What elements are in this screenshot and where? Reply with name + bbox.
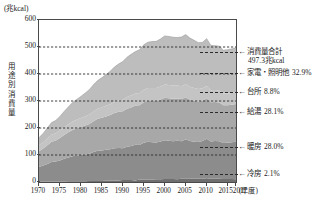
callout-value: 497.3兆kcal bbox=[248, 56, 284, 65]
y-tick-label: 100 bbox=[14, 150, 36, 158]
x-tick-mark bbox=[143, 183, 144, 186]
unit-caption: (兆kcal) bbox=[4, 4, 29, 13]
x-tick-label: 1970 bbox=[31, 187, 45, 195]
callout-arrow-icon: ← bbox=[238, 87, 247, 96]
callout-leader-heating bbox=[200, 147, 238, 148]
callout-appliances: ←家電・照明他32.9% bbox=[238, 68, 311, 77]
callout-hotwater: ←給湯28.1% bbox=[238, 107, 283, 116]
x-tick-label: 2000 bbox=[157, 187, 171, 195]
callout-arrow-icon: ← bbox=[238, 169, 247, 178]
callout-cooling: ←冷房2.1% bbox=[238, 169, 280, 178]
x-tick-mark bbox=[235, 183, 236, 186]
callout-leader-hotwater bbox=[200, 112, 238, 113]
y-tick-mark bbox=[37, 46, 40, 47]
callout-value: 8.8% bbox=[264, 87, 280, 96]
x-tick-label: 1980 bbox=[73, 187, 87, 195]
y-tick-mark bbox=[37, 154, 40, 155]
callout-value: 28.1% bbox=[264, 107, 283, 116]
callout-label: 暖房 bbox=[247, 142, 261, 151]
y-tick-mark bbox=[37, 100, 40, 101]
chart-root: (兆kcal) 用途別消費量 0100200300400500600 19701… bbox=[0, 0, 322, 207]
callout-arrow-icon: ← bbox=[238, 68, 247, 77]
callout-label: 家電・照明他 bbox=[247, 68, 289, 77]
y-axis-ticks: 0100200300400500600 bbox=[12, 19, 36, 183]
x-tick-mark bbox=[164, 183, 165, 186]
x-tick-label: 2015 bbox=[218, 187, 232, 195]
x-tick-label: 1985 bbox=[94, 187, 108, 195]
x-tick-mark bbox=[122, 183, 123, 186]
callout-arrow-icon: ← bbox=[238, 47, 247, 56]
y-tick-label: 600 bbox=[14, 15, 36, 23]
x-axis-unit-label: (年度) bbox=[239, 187, 258, 195]
callout-label: 冷房 bbox=[247, 169, 261, 178]
callout-leader-cooling bbox=[200, 174, 238, 175]
x-tick-mark bbox=[185, 183, 186, 186]
y-tick-label: 400 bbox=[14, 69, 36, 77]
y-tick-label: 500 bbox=[14, 42, 36, 50]
plot-area bbox=[38, 19, 237, 183]
x-tick-mark bbox=[59, 183, 60, 186]
x-tick-label: 1990 bbox=[115, 187, 129, 195]
y-tick-mark bbox=[37, 73, 40, 74]
x-tick-label: 1975 bbox=[52, 187, 66, 195]
callout-label: 台所 bbox=[247, 87, 261, 96]
callout-label: 給湯 bbox=[247, 107, 261, 116]
y-tick-mark bbox=[37, 19, 40, 20]
callout-arrow-icon: ← bbox=[238, 142, 247, 151]
callout-leader-appliances bbox=[200, 73, 238, 74]
callout-heating: ←暖房28.0% bbox=[238, 142, 283, 151]
y-tick-mark bbox=[37, 181, 40, 182]
x-tick-label: 2005 bbox=[178, 187, 192, 195]
stacked-area-svg bbox=[39, 20, 236, 182]
callout-kitchen: ←台所8.8% bbox=[238, 87, 280, 96]
x-tick-label: 2010 bbox=[198, 187, 212, 195]
callout-total: ←消費量合計497.3兆kcal bbox=[238, 47, 284, 66]
y-tick-label: 0 bbox=[14, 177, 36, 185]
callout-value: 2.1% bbox=[264, 169, 280, 178]
y-tick-mark bbox=[37, 127, 40, 128]
x-axis-ticks: 1970197519801985199019952000200520102015… bbox=[38, 183, 237, 199]
x-tick-mark bbox=[101, 183, 102, 186]
callout-value: 28.0% bbox=[264, 142, 283, 151]
callout-arrow-icon: ← bbox=[238, 107, 247, 116]
callout-leader-kitchen bbox=[200, 92, 238, 93]
x-tick-mark bbox=[227, 183, 228, 186]
y-tick-label: 200 bbox=[14, 123, 36, 131]
x-tick-mark bbox=[206, 183, 207, 186]
x-tick-mark bbox=[38, 183, 39, 186]
y-tick-label: 300 bbox=[14, 96, 36, 104]
callout-value: 32.9% bbox=[292, 68, 311, 77]
x-tick-mark bbox=[80, 183, 81, 186]
callout-leader-total bbox=[200, 52, 238, 53]
x-tick-label: 1995 bbox=[136, 187, 150, 195]
callout-label: 消費量合計 bbox=[247, 47, 282, 56]
